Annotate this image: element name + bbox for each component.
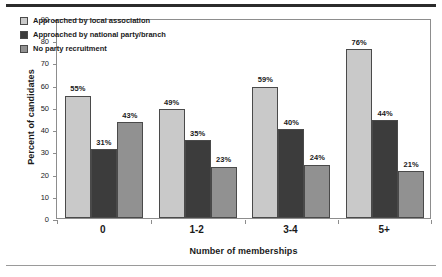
legend-item: Approached by national party/branch bbox=[20, 29, 166, 41]
x-axis-tick-label: 1-2 bbox=[167, 224, 227, 235]
chart-figure: Percent of candidates Number of membersh… bbox=[0, 0, 442, 277]
bar-column: 23% bbox=[211, 18, 237, 218]
bar bbox=[65, 96, 91, 218]
bar bbox=[398, 171, 424, 218]
bar bbox=[252, 87, 278, 218]
x-axis-tick-mark bbox=[431, 220, 432, 224]
y-axis-tick-label: 70 bbox=[27, 61, 49, 69]
bar-column: 40% bbox=[278, 18, 304, 218]
bar bbox=[91, 149, 117, 218]
bottom-rule bbox=[6, 265, 436, 266]
y-axis-tick-mark bbox=[53, 131, 57, 132]
bar-column: 44% bbox=[372, 18, 398, 218]
y-axis-tick-mark bbox=[53, 87, 57, 88]
legend-item-label: Approached by local association bbox=[33, 17, 150, 25]
legend-item: No party recruitment bbox=[20, 43, 166, 55]
legend-swatch-icon bbox=[20, 45, 28, 53]
y-axis-tick-label: 20 bbox=[27, 172, 49, 180]
legend-item-label: Approached by national party/branch bbox=[33, 31, 166, 39]
x-axis-tick-mark bbox=[57, 220, 58, 224]
y-axis-tick-label: 60 bbox=[27, 83, 49, 91]
x-axis-tick-mark bbox=[151, 220, 152, 224]
bar-group: 49%35%23% bbox=[159, 20, 237, 218]
x-axis-title: Number of memberships bbox=[56, 246, 431, 256]
y-axis-tick-mark bbox=[53, 64, 57, 65]
y-axis-tick-label: 50 bbox=[27, 105, 49, 113]
legend-item-label: No party recruitment bbox=[33, 45, 107, 53]
y-axis-tick-label: 40 bbox=[27, 127, 49, 135]
legend-swatch-icon bbox=[20, 31, 28, 39]
bar bbox=[117, 122, 143, 218]
bar-column: 24% bbox=[304, 18, 330, 218]
x-axis-tick-label: 3-4 bbox=[260, 224, 320, 235]
bar-group: 59%40%24% bbox=[252, 20, 330, 218]
legend-item: Approached by local association bbox=[20, 15, 166, 27]
bar-group: 76%44%21% bbox=[346, 20, 424, 218]
y-axis-tick-mark bbox=[53, 153, 57, 154]
bar bbox=[211, 167, 237, 218]
bar-column: 35% bbox=[185, 18, 211, 218]
bar-column: 76% bbox=[346, 18, 372, 218]
bar bbox=[185, 140, 211, 218]
bar bbox=[159, 109, 185, 218]
bar-value-label: 21% bbox=[391, 161, 431, 169]
x-axis-tick-mark bbox=[245, 220, 246, 224]
legend-swatch-icon bbox=[20, 17, 28, 25]
bar-value-label: 24% bbox=[297, 154, 337, 162]
y-axis-tick-mark bbox=[53, 176, 57, 177]
x-axis-tick-mark bbox=[338, 220, 339, 224]
y-axis-tick-label: 0 bbox=[27, 216, 49, 224]
y-axis-tick-label: 10 bbox=[27, 194, 49, 202]
bar bbox=[304, 165, 330, 218]
bar bbox=[372, 120, 398, 218]
bar-value-label: 43% bbox=[110, 112, 150, 120]
bar bbox=[346, 49, 372, 218]
chart-legend: Approached by local associationApproache… bbox=[20, 15, 166, 57]
top-rule bbox=[6, 4, 436, 7]
y-axis-tick-mark bbox=[53, 198, 57, 199]
x-axis-tick-label: 5+ bbox=[354, 224, 414, 235]
y-axis-tick-label: 30 bbox=[27, 150, 49, 158]
y-axis-tick-mark bbox=[53, 109, 57, 110]
bar-value-label: 23% bbox=[204, 156, 244, 164]
x-axis-tick-label: 0 bbox=[73, 224, 133, 235]
bar bbox=[278, 129, 304, 218]
bar-column: 21% bbox=[398, 18, 424, 218]
